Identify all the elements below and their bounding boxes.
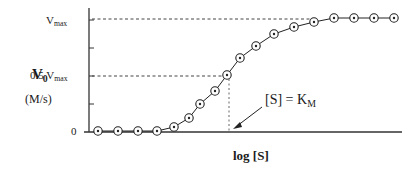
y-axis-units: (M/s) [25,92,52,107]
data-point-center [393,17,395,19]
y-tick-zero: 0 [71,125,77,137]
data-point-center [353,17,355,19]
data-point-center [239,57,241,59]
x-axis-label: log [S] [233,148,269,164]
y-tick-half-vmax: 0.5 Vmax [30,69,68,83]
data-point-center [173,126,175,128]
data-point-center [199,103,201,105]
data-point-center [214,90,216,92]
data-point-center [117,130,119,132]
km-annotation: [S] = KM [265,92,316,109]
data-point-center [333,17,335,19]
km-arrow [233,107,262,129]
y-tick-vmax: Vmax [46,14,67,28]
data-point-center [156,130,158,132]
data-point-center [313,21,315,23]
data-point-center [293,26,295,28]
data-point-center [97,130,99,132]
data-point-center [137,130,139,132]
data-markers [94,14,398,135]
data-point-center [273,33,275,35]
data-line [98,18,394,131]
y-ticks [89,20,94,104]
data-point-center [226,74,228,76]
data-point-center [373,17,375,19]
data-point-center [255,45,257,47]
data-point-center [188,117,190,119]
